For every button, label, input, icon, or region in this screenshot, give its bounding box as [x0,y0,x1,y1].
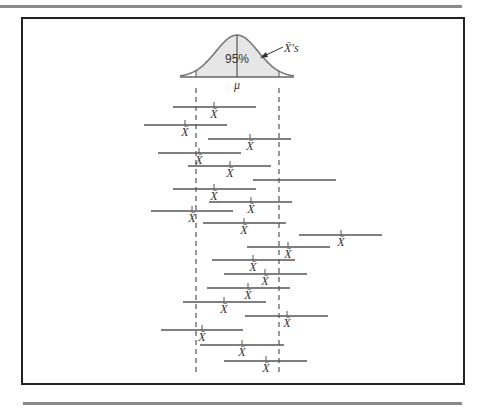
sample-mean-label: X̄ [246,202,255,216]
sample-mean-label: X̄ [209,107,218,121]
sample-mean-label: X̄ [194,153,203,167]
mu-label: μ [233,78,240,92]
interval-row: X̄ [224,269,307,288]
sample-mean-label: X̄ [283,247,292,261]
confidence-interval-diagram: 95% μ X̄'s X̄X̄X̄X̄X̄X̄X̄X̄X̄X̄X̄X̄X̄X̄X… [0,0,482,411]
sample-mean-label: X̄ [245,139,254,153]
sample-mean-label: X̄ [336,235,345,249]
sample-mean-label: X̄ [219,302,228,316]
interval-row: X̄ [158,148,241,167]
interval-row: X̄ [173,102,256,121]
interval-row: X̄ [207,283,290,302]
sample-mean-label: X̄ [225,166,234,180]
interval-row: X̄ [209,197,292,216]
interval-row: X̄ [212,255,295,274]
interval-row: X̄ [224,356,307,375]
interval-row: X̄ [247,242,330,261]
interval-list: X̄X̄X̄X̄X̄X̄X̄X̄X̄X̄X̄X̄X̄X̄X̄X̄X̄X̄X̄ [144,102,382,375]
sample-mean-label: X̄ [260,274,269,288]
interval-row: X̄ [299,230,382,249]
area-label: 95% [225,52,249,66]
sample-mean-label: X̄ [180,125,189,139]
sample-mean-label: X̄ [248,260,257,274]
xbar-callout-label: X̄'s [283,41,299,55]
sample-mean-label: X̄ [282,316,291,330]
interval-row: X̄ [245,311,328,330]
sample-mean-label: X̄ [209,189,218,203]
sample-mean-label: X̄ [239,223,248,237]
sample-mean-label: X̄ [261,361,270,375]
interval-row: X̄ [173,184,256,203]
sample-mean-label: X̄ [197,330,206,344]
interval-row: X̄ [183,297,266,316]
sampling-distribution: 95% μ X̄'s [180,35,299,92]
interval-row: X̄ [200,340,284,359]
sample-mean-label: X̄ [237,345,246,359]
interval-row: X̄ [144,120,227,139]
interval-row: X̄ [151,206,233,225]
sample-mean-label: X̄ [243,288,252,302]
interval-row: X̄ [203,218,286,237]
sample-mean-label: X̄ [187,211,196,225]
interval-row: X̄ [161,325,243,344]
